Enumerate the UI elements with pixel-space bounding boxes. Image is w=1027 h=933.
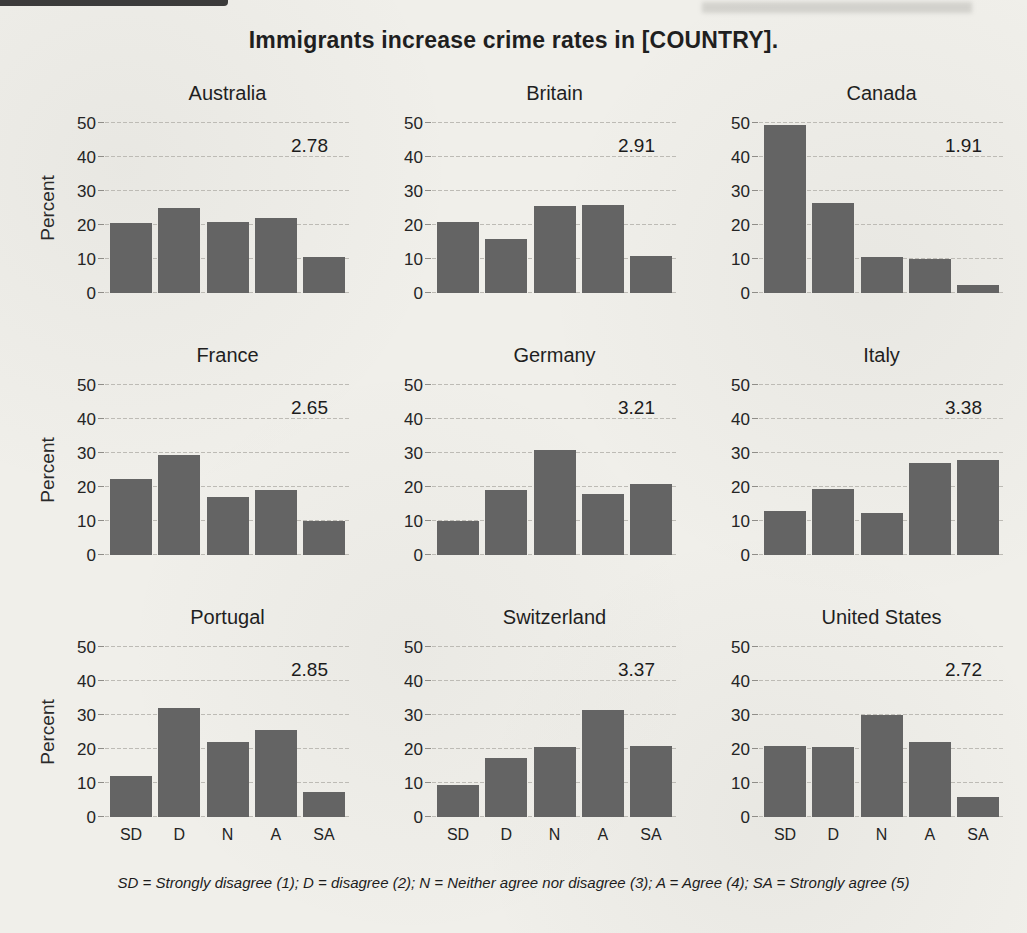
scan-artifact: [0, 0, 228, 6]
y-tick-label: 10: [77, 251, 96, 268]
bar: [582, 494, 624, 555]
bar: [812, 489, 854, 555]
bar: [909, 259, 951, 293]
y-tick-label: 40: [404, 673, 423, 690]
chart-panel-canada: Canada 01020304050 1.91: [717, 79, 1004, 293]
bar: [630, 256, 672, 293]
gridline: [105, 646, 350, 647]
y-tick-mark: [752, 258, 758, 259]
y-tick-mark: [425, 520, 431, 521]
y-tick-mark: [425, 554, 431, 555]
y-tick-mark: [425, 782, 431, 783]
y-tick-mark: [425, 418, 431, 419]
y-tick-label: 30: [404, 707, 423, 724]
chart-panel-britain: Britain 01020304050 2.91: [390, 79, 677, 293]
y-tick-mark: [98, 816, 104, 817]
mean-value-label: 2.91: [618, 135, 655, 157]
gridline: [759, 384, 1004, 385]
y-tick-label: 50: [77, 377, 96, 394]
x-axis-labels: SDDNASA: [105, 826, 350, 844]
y-tick-mark: [98, 224, 104, 225]
y-tick-mark: [98, 680, 104, 681]
y-tick-mark: [425, 680, 431, 681]
y-tick-label: 0: [741, 547, 750, 564]
x-axis-labels: SDDNASA: [759, 826, 1004, 844]
chart-title: Germany: [432, 341, 677, 369]
bar: [861, 715, 903, 817]
y-axis-label: Percent: [36, 647, 60, 817]
bar: [534, 747, 576, 817]
gridline: [759, 452, 1004, 453]
x-tick-label: N: [207, 826, 249, 844]
chart-title: France: [105, 341, 350, 369]
bar: [764, 125, 806, 293]
y-tick-mark: [425, 748, 431, 749]
y-tick-label: 30: [77, 445, 96, 462]
y-tick-mark: [98, 258, 104, 259]
y-tick-label: 50: [731, 115, 750, 132]
y-axis-ticks: 01020304050: [63, 123, 105, 293]
y-axis-ticks: 01020304050: [390, 647, 432, 817]
x-tick-label: A: [909, 826, 951, 844]
bar: [207, 742, 249, 817]
y-axis-ticks: 01020304050: [717, 385, 759, 555]
plot-area: 2.91: [432, 123, 677, 293]
y-tick-mark: [752, 748, 758, 749]
y-tick-label: 10: [404, 775, 423, 792]
gridline: [759, 646, 1004, 647]
y-tick-label: 50: [404, 377, 423, 394]
bar: [630, 484, 672, 555]
y-tick-mark: [752, 646, 758, 647]
y-tick-label: 40: [77, 149, 96, 166]
bar: [861, 257, 903, 293]
bar: [437, 785, 479, 817]
y-tick-label: 30: [77, 707, 96, 724]
y-tick-label: 20: [77, 741, 96, 758]
y-tick-mark: [98, 646, 104, 647]
y-tick-mark: [425, 646, 431, 647]
bars-group: [432, 450, 677, 555]
y-axis-label: Percent: [36, 385, 60, 555]
chart-title: Portugal: [105, 603, 350, 631]
y-tick-label: 20: [731, 217, 750, 234]
y-tick-label: 0: [87, 285, 96, 302]
bar: [534, 450, 576, 555]
bar: [303, 521, 345, 555]
y-axis-ticks: 01020304050: [63, 647, 105, 817]
bar: [437, 521, 479, 555]
y-tick-label: 20: [731, 479, 750, 496]
x-tick-label: SD: [764, 826, 806, 844]
x-tick-label: SA: [303, 826, 345, 844]
y-tick-label: 10: [731, 775, 750, 792]
y-tick-mark: [752, 190, 758, 191]
y-tick-mark: [752, 224, 758, 225]
y-tick-mark: [752, 292, 758, 293]
y-tick-label: 10: [77, 513, 96, 530]
y-tick-label: 50: [404, 639, 423, 656]
y-tick-mark: [752, 714, 758, 715]
y-tick-label: 10: [404, 513, 423, 530]
mean-value-label: 2.65: [291, 397, 328, 419]
charts-grid: Australia Percent 01020304050 2.78 Brita…: [0, 79, 1027, 844]
y-tick-label: 50: [404, 115, 423, 132]
y-tick-label: 20: [77, 217, 96, 234]
y-axis-ticks: 01020304050: [717, 123, 759, 293]
y-tick-label: 20: [404, 479, 423, 496]
y-tick-mark: [98, 782, 104, 783]
y-tick-mark: [425, 190, 431, 191]
y-tick-label: 40: [731, 673, 750, 690]
bar: [582, 710, 624, 817]
bar: [582, 205, 624, 293]
y-tick-label: 20: [77, 479, 96, 496]
y-axis-ticks: 01020304050: [390, 123, 432, 293]
y-tick-label: 30: [731, 707, 750, 724]
bar: [485, 758, 527, 818]
y-tick-mark: [98, 452, 104, 453]
y-tick-mark: [98, 122, 104, 123]
chart-panel-australia: Australia Percent 01020304050 2.78: [63, 79, 350, 293]
y-tick-mark: [752, 418, 758, 419]
bar: [764, 746, 806, 817]
mean-value-label: 3.21: [618, 397, 655, 419]
y-tick-label: 0: [87, 547, 96, 564]
bar: [861, 513, 903, 556]
